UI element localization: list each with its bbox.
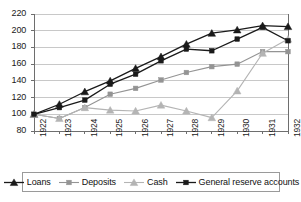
x-tick-label: 1932 <box>292 119 301 137</box>
legend-marker-square-icon <box>58 178 80 187</box>
x-tick-label: 1931 <box>267 119 277 137</box>
legend-item-cash[interactable]: Cash <box>123 178 168 187</box>
y-tick-label: 100 <box>4 108 26 118</box>
x-tick-label: 1925 <box>114 119 124 137</box>
legend-marker-triangle-icon <box>3 178 25 187</box>
x-tick-label: 1928 <box>190 119 200 137</box>
x-tick-label: 1930 <box>241 119 251 137</box>
legend-marker-square-icon <box>175 178 197 187</box>
y-tick-label: 200 <box>4 25 26 35</box>
y-tick-label: 180 <box>4 41 26 51</box>
y-tick-label: 120 <box>4 92 26 102</box>
x-tick-label: 1924 <box>89 119 99 137</box>
x-tick-label: 1922 <box>38 119 48 137</box>
legend-item-deposits[interactable]: Deposits <box>58 178 116 187</box>
legend-item-loans[interactable]: Loans <box>3 178 51 187</box>
chart-legend: LoansDepositsCashGeneral reserve account… <box>22 172 280 192</box>
legend-item-label: Loans <box>27 178 51 187</box>
y-tick-label: 140 <box>4 75 26 85</box>
line-chart: 80100120140160180200220 1922192319241925… <box>0 0 301 202</box>
x-tick-label: 1923 <box>63 119 73 137</box>
y-tick-label: 160 <box>4 58 26 68</box>
legend-item-general-reserve-accounts[interactable]: General reserve accounts <box>175 178 300 187</box>
x-tick-label: 1929 <box>216 119 226 137</box>
legend-item-label: Cash <box>147 178 168 187</box>
y-tick-label: 80 <box>4 125 26 135</box>
legend-item-label: Deposits <box>82 178 116 187</box>
y-tick-label: 220 <box>4 8 26 18</box>
x-tick-label: 1927 <box>165 119 175 137</box>
legend-item-label: General reserve accounts <box>199 178 300 187</box>
x-tick-label: 1926 <box>140 119 150 137</box>
legend-marker-triangle-icon <box>123 178 145 187</box>
